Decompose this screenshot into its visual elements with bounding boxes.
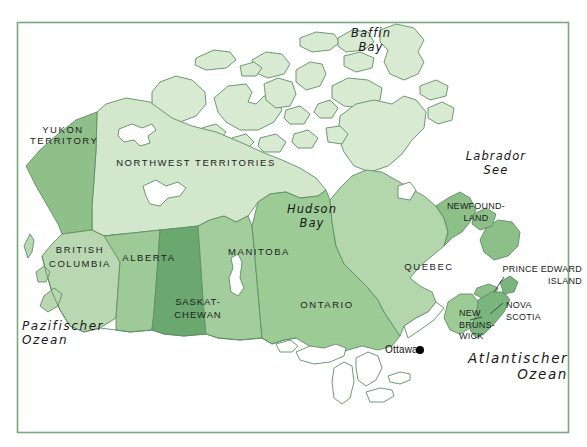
canada-map: YUKON TERRITORY NORTHWEST TERRITORIES BR… bbox=[0, 0, 587, 447]
city-marker-ottawa bbox=[416, 346, 424, 354]
map-canvas bbox=[0, 0, 587, 447]
province-shape-saskatchewan bbox=[152, 226, 206, 336]
